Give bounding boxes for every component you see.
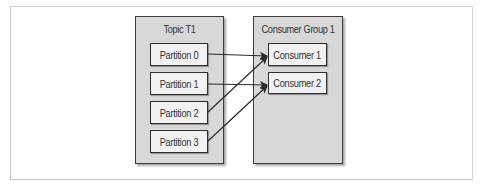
figure-frame [10, 6, 473, 180]
topic-title: Topic T1 [141, 23, 218, 35]
partition-2-node: Partition 2 [150, 101, 208, 124]
consumer-label: Consumer 2 [274, 77, 322, 89]
partition-label: Partition 2 [160, 107, 199, 119]
consumer-label: Consumer 1 [274, 49, 322, 61]
partition-label: Partition 1 [160, 78, 199, 90]
partition-0-node: Partition 0 [150, 43, 208, 66]
consumer-group-title: Consumer Group 1 [259, 23, 336, 35]
partition-label: Partition 3 [160, 136, 199, 148]
partition-label: Partition 0 [160, 49, 199, 61]
partition-3-node: Partition 3 [150, 130, 208, 153]
consumer-1-node: Consumer 1 [268, 43, 327, 66]
consumer-2-node: Consumer 2 [268, 72, 327, 94]
partition-1-node: Partition 1 [150, 72, 208, 95]
